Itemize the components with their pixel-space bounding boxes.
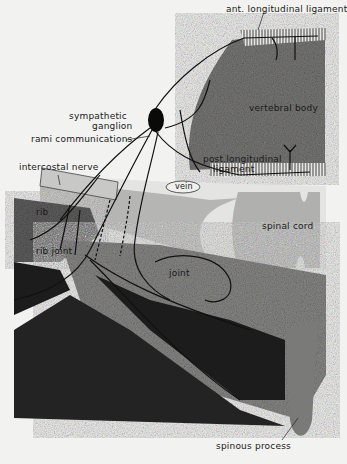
label-spinous-process: spinous process [216, 441, 291, 451]
label-ant-longitudinal-ligament: ant. longitudinal ligament [226, 4, 347, 14]
label-post-longitudinal: post.longitudinal [203, 154, 282, 164]
label-rami-communications: rami communications [31, 134, 132, 144]
label-spinal-cord: spinal cord [262, 221, 313, 231]
label-rib: rib [36, 207, 49, 217]
label-rib-joint: rib joint [36, 246, 72, 256]
label-ligament: ligament [213, 164, 254, 174]
spinous-process-shape [286, 320, 318, 436]
label-intercostal-nerve: intercostal nerve [19, 162, 99, 172]
sympathetic-ganglion-shape [148, 108, 164, 132]
label-sympathetic: sympathetic [69, 111, 127, 121]
label-joint: joint [169, 268, 190, 278]
label-ganglion: ganglion [92, 121, 132, 131]
label-vertebral-body: vertebral body [249, 103, 318, 113]
label-vein: vein [175, 182, 193, 192]
vertebral-body-shape [189, 28, 325, 170]
